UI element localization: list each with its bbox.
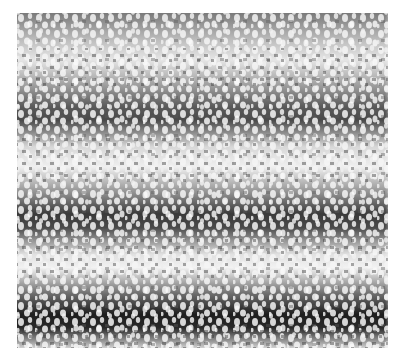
- right-edge-fade: [385, 13, 399, 348]
- spot-pattern: [17, 13, 388, 348]
- texture-photo: [17, 13, 388, 348]
